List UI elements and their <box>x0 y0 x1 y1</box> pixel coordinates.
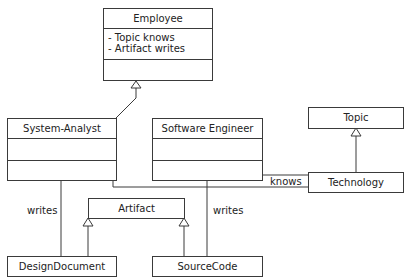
class-software-engineer: Software Engineer <box>152 118 263 181</box>
class-name: System-Analyst <box>8 119 116 138</box>
association-label-writes-right: writes <box>213 205 243 217</box>
class-design-document: DesignDocument <box>7 256 117 277</box>
class-artifact: Artifact <box>88 198 185 219</box>
generalization-arrow-icon <box>351 128 361 136</box>
class-attributes <box>153 138 262 160</box>
class-name: SourceCode <box>153 257 262 276</box>
class-attributes: - Topic knows - Artifact writes <box>104 28 212 59</box>
generalization-arrow-icon <box>83 218 93 226</box>
class-name: Artifact <box>89 199 184 218</box>
class-name: DesignDocument <box>8 257 116 276</box>
class-technology: Technology <box>308 172 404 193</box>
class-name: Software Engineer <box>153 119 262 138</box>
association-label-writes-left: writes <box>27 205 57 217</box>
generalization-line-analyst-employee <box>116 88 136 118</box>
class-source-code: SourceCode <box>152 256 263 277</box>
class-attributes <box>8 138 116 160</box>
class-operations <box>153 160 262 179</box>
generalization-arrow-icon <box>131 81 141 88</box>
class-employee: Employee - Topic knows - Artifact writes <box>103 8 213 81</box>
class-operations <box>8 160 116 179</box>
class-name: Employee <box>104 9 212 28</box>
association-label-knows: knows <box>270 176 302 188</box>
class-name: Technology <box>309 173 403 192</box>
class-system-analyst: System-Analyst <box>7 118 117 181</box>
class-topic: Topic <box>308 107 404 129</box>
attribute: - Artifact writes <box>108 43 208 54</box>
attribute: - Topic knows <box>108 32 208 43</box>
generalization-arrow-icon <box>179 218 189 226</box>
class-operations <box>104 59 212 79</box>
class-name: Topic <box>309 108 403 127</box>
